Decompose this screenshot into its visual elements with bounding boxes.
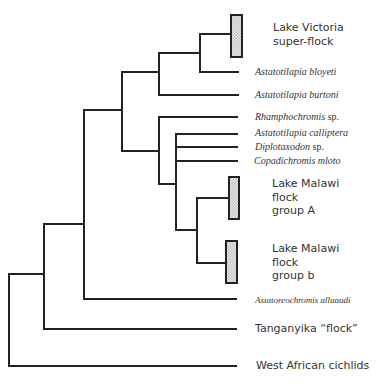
label-line: group b [272, 269, 339, 283]
label-line: Lake Malawi [272, 177, 339, 191]
epithet: alluaudi [321, 295, 351, 305]
label-lake-malawi-group-b: Lake Malawi flock group b [272, 242, 339, 283]
label-line: West African cichlids [256, 359, 369, 373]
label-line: flock [272, 191, 339, 205]
label-rhamphochromis: Rhamphochromis sp. [255, 111, 339, 123]
label-line: Lake Malawi [272, 242, 339, 256]
genus: Rhamphochromis [255, 111, 325, 122]
label-astatotilapia-calliptera: Astatotilapia calliptera [255, 127, 348, 139]
label-line: flock [272, 256, 339, 270]
genus: Astatoreochromis [255, 295, 318, 305]
genus: Astatotilapia [255, 127, 307, 138]
label-line: group A [272, 204, 339, 218]
label-lake-malawi-group-a: Lake Malawi flock group A [272, 177, 339, 218]
clade-box-malawi-a [229, 177, 239, 219]
epithet: burtoni [309, 89, 338, 100]
label-astatoreochromis-alluaudi: Astatoreochromis alluaudi [255, 294, 351, 306]
genus: Copadichromis [254, 155, 315, 166]
label-copadichromis-mloto: Copadichromis mloto [254, 155, 341, 167]
epithet: mloto [318, 155, 341, 166]
label-astatotilapia-bloyeti: Astatotilapia bloyeti [255, 66, 336, 78]
genus: Astatotilapia [255, 66, 307, 77]
epithet: bloyeti [309, 66, 336, 77]
epithet: calliptera [309, 127, 348, 138]
label-astatotilapia-burtoni: Astatotilapia burtoni [255, 89, 339, 101]
epithet: sp. [313, 141, 324, 152]
label-lake-victoria: Lake Victoria super-flock [273, 21, 344, 48]
label-tanganyika-flock: Tanganyika “flock” [255, 322, 358, 336]
label-line: super-flock [273, 35, 344, 49]
epithet: sp. [328, 111, 339, 122]
label-west-african-cichlids: West African cichlids [256, 359, 369, 373]
label-line: Tanganyika “flock” [255, 322, 358, 336]
genus: Astatotilapia [255, 89, 307, 100]
clade-box-malawi-b [226, 241, 237, 283]
genus: Diplotaxodon [255, 141, 310, 152]
label-line: Lake Victoria [273, 21, 344, 35]
branch-tanganyika [44, 224, 236, 329]
label-diplotaxodon: Diplotaxodon sp. [255, 141, 324, 153]
clade-box-victoria [231, 15, 242, 57]
